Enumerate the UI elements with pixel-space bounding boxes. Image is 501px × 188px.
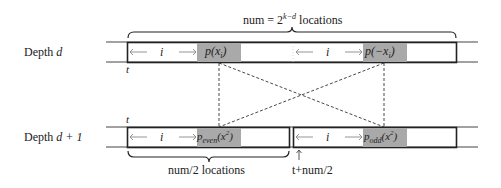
top-brace (128, 27, 456, 38)
pointer-t-bottom: t (126, 113, 129, 125)
row-label-depth-d: Depth d (24, 45, 62, 60)
index-i: i (326, 130, 329, 145)
butterfly-connections (219, 63, 384, 127)
bottom-brace (128, 151, 289, 162)
diagram-canvas (0, 0, 501, 188)
half-pointer-label: t+num/2 (292, 163, 333, 178)
index-i: i (326, 45, 329, 60)
index-i: i (160, 130, 163, 145)
bottom-brace-label: num/2 locations (168, 163, 245, 178)
cell-label-p-xi: p(xi) (205, 44, 227, 60)
half-pointer-arrow (297, 150, 302, 160)
cell-label-p-odd: podd(x2) (364, 129, 397, 145)
array-box-depth-d (128, 43, 457, 63)
top-brace-label: num = 2k−d locations (243, 12, 342, 28)
cell-label-p-even: peven(x2) (197, 129, 233, 145)
pointer-t-top: t (126, 63, 129, 75)
row-label-depth-d1: Depth d + 1 (24, 130, 82, 145)
cell-label-p-neg-xi: p(−xi) (365, 44, 395, 60)
index-i: i (160, 45, 163, 60)
